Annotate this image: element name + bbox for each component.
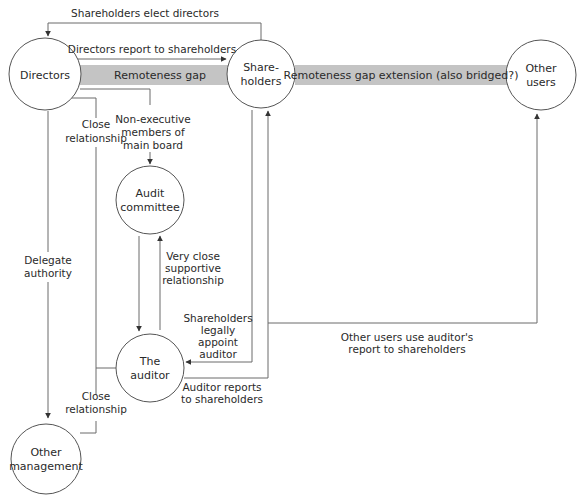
node-auditor-label-1: The <box>139 355 161 368</box>
node-other-management: Other management <box>9 424 83 494</box>
edge-other-users-use <box>268 114 537 323</box>
node-other-management-label-2: management <box>9 460 83 473</box>
node-other-management-label-1: Other <box>30 446 62 459</box>
label-very-close-2: supportive <box>165 262 221 274</box>
label-auditor-reports-2: to shareholders <box>181 393 263 405</box>
diagram-canvas: Directors Share- holders Other users Aud… <box>0 0 584 501</box>
label-very-close-3: relationship <box>162 274 224 286</box>
label-close-relationship-top-1: Close <box>82 118 111 130</box>
edge-close-relationship-bottom-lower <box>80 421 96 433</box>
label-delegate-authority-2: authority <box>24 267 72 279</box>
node-audit-committee-label-2: committee <box>120 201 180 214</box>
label-other-users-use-2: report to shareholders <box>348 343 465 355</box>
label-delegate-authority-1: Delegate <box>24 254 72 266</box>
node-other-users-label-2: users <box>526 76 556 89</box>
node-other-users-label-1: Other <box>525 62 557 75</box>
node-audit-committee: Audit committee <box>116 166 184 234</box>
node-directors-label: Directors <box>20 69 70 82</box>
label-close-relationship-bottom-1: Close <box>82 390 111 402</box>
node-auditor-label-2: auditor <box>130 369 170 382</box>
label-directors-report: Directors report to shareholders <box>68 43 236 55</box>
label-auditor-reports-1: Auditor reports <box>182 381 261 393</box>
label-legally-appoint-4: auditor <box>199 348 237 360</box>
remoteness-gap-extension-label: Remoteness gap extension (also bridged?) <box>284 69 519 82</box>
edge-close-relationship-top-lower <box>96 147 118 368</box>
label-close-relationship-top-2: relationship <box>65 132 127 144</box>
node-shareholders-label-2: holders <box>241 75 282 88</box>
label-shareholders-elect-directors: Shareholders elect directors <box>71 7 219 19</box>
label-close-relationship-bottom-2: relationship <box>65 403 127 415</box>
edge-shareholders-elect-directors <box>48 23 261 40</box>
label-non-executive-3: main board <box>123 139 183 151</box>
label-non-executive-1: Non-executive <box>115 113 190 125</box>
label-very-close-1: Very close <box>166 250 220 262</box>
node-audit-committee-label-1: Audit <box>136 187 166 200</box>
edge-non-executive <box>80 89 150 105</box>
label-legally-appoint-2: legally <box>201 324 236 336</box>
label-legally-appoint-3: appoint <box>198 336 238 348</box>
node-auditor: The auditor <box>116 334 184 402</box>
remoteness-gap-label: Remoteness gap <box>114 69 206 82</box>
label-legally-appoint-1: Shareholders <box>183 312 252 324</box>
label-other-users-use-1: Other users use auditor's <box>341 331 474 343</box>
node-shareholders-label-1: Share- <box>243 61 279 74</box>
edge-close-relationship-top <box>72 98 96 118</box>
label-non-executive-2: members of <box>121 126 185 138</box>
